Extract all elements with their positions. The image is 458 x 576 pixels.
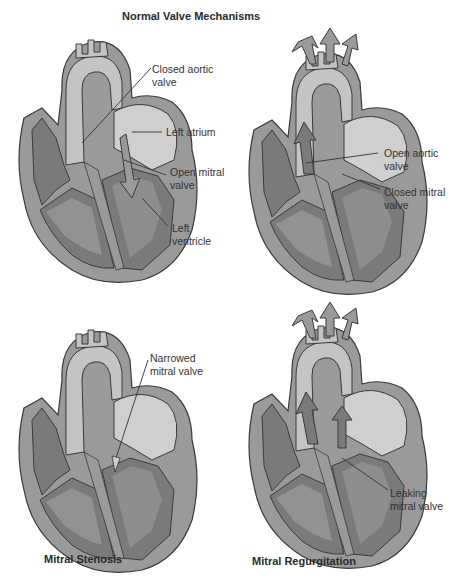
- caption-mitral-stenosis: Mitral Stenosis: [44, 553, 122, 565]
- label-left-ventricle: Left ventricle: [172, 222, 211, 248]
- label-open-aortic-valve: Open aortic valve: [384, 147, 438, 173]
- heart-mitral-regurgitation: [249, 302, 427, 568]
- label-narrowed-mitral-valve: Narrowed mitral valve: [150, 352, 203, 378]
- label-leaking-mitral-valve: Leaking mitral valve: [390, 487, 443, 513]
- label-left-atrium: Left atrium: [166, 126, 216, 139]
- caption-mitral-regurgitation: Mitral Regurgitation: [252, 555, 356, 567]
- label-open-mitral-valve: Open mitral valve: [170, 166, 224, 192]
- label-closed-mitral-valve: Closed mitral valve: [384, 186, 445, 212]
- label-closed-aortic-valve: Closed aortic valve: [152, 63, 213, 89]
